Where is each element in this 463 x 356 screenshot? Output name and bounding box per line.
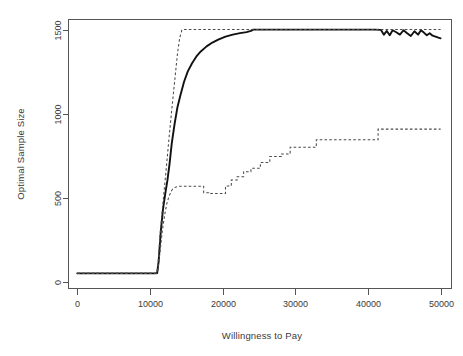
chart-canvas: 01000020000300004000050000 050010001500 … <box>0 0 463 356</box>
y-tick-label: 500 <box>53 191 63 206</box>
y-tick-label: 1500 <box>53 20 63 40</box>
y-tick-label: 1000 <box>53 104 63 124</box>
x-tick-label: 50000 <box>429 299 454 309</box>
x-tick-label: 40000 <box>356 299 381 309</box>
chart-figure: 01000020000300004000050000 050010001500 … <box>0 0 463 356</box>
x-tick-label: 0 <box>75 299 80 309</box>
x-axis-title: Willingness to Pay <box>222 330 302 341</box>
x-tick-label: 20000 <box>211 299 236 309</box>
y-axis-title: Optimal Sample Size <box>15 108 26 200</box>
x-tick-label: 30000 <box>283 299 308 309</box>
x-tick-label: 10000 <box>138 299 163 309</box>
y-tick-label: 0 <box>53 280 63 285</box>
